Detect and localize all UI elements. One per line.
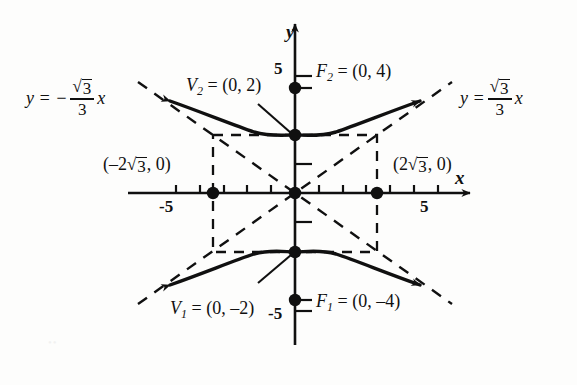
- asymptote-right-num: 3: [499, 79, 510, 97]
- asymptote-left-den: 3: [76, 100, 89, 118]
- vertex-bottom-label: V1 = (0, –2): [170, 299, 254, 320]
- scan-artifact: ••: [48, 336, 58, 348]
- corner-right-suffix: , 0): [428, 154, 452, 174]
- fraction-right-numerator: √3: [488, 78, 512, 98]
- sqrt-icon: √3: [490, 78, 510, 97]
- corner-right-prefix: (2: [393, 154, 408, 174]
- asymptote-right-variable: x: [515, 89, 523, 107]
- vertex-bottom-value: = (0, –2): [187, 298, 254, 318]
- asymptote-right-den: 3: [493, 100, 506, 118]
- asymptote-right-lhs: y =: [460, 89, 485, 107]
- corner-left-prefix: (–2: [103, 154, 127, 174]
- asymptote-right-equation: y = √3 3 x: [460, 78, 523, 118]
- focus-bottom-symbol: F: [316, 291, 327, 311]
- fraction-left-numerator: √3: [70, 78, 94, 98]
- focus-top-label: F2 = (0, 4): [316, 62, 391, 83]
- corner-left-label: (–2√3, 0): [103, 155, 171, 175]
- leader-v1: [258, 255, 291, 283]
- asymptote-left-equation: y = − √3 3 x: [26, 78, 105, 118]
- asymptote-left-num: 3: [82, 79, 93, 97]
- vertex-bottom-symbol: V: [170, 298, 181, 318]
- focus-bottom-value: = (0, –4): [333, 291, 400, 311]
- vertex-top-value: = (0, 2): [203, 75, 261, 95]
- point-origin: [289, 187, 301, 199]
- corner-right-radicand: 3: [417, 157, 428, 175]
- point-vertex-top: [289, 129, 301, 141]
- point-focus-top: [289, 82, 301, 94]
- asymptote-left-variable: x: [97, 89, 105, 107]
- sqrt-icon: √3: [72, 78, 92, 97]
- fraction-right: √3 3: [488, 78, 512, 118]
- plot-canvas: [0, 0, 577, 385]
- y-tick-label-neg5: -5: [268, 305, 282, 322]
- focus-top-value: = (0, 4): [333, 61, 391, 81]
- sqrt-icon: √3: [408, 156, 428, 175]
- corner-left-radicand: 3: [136, 157, 147, 175]
- y-axis-label: y: [286, 22, 294, 41]
- x-axis-label: x: [455, 168, 465, 187]
- focus-top-symbol: F: [316, 61, 327, 81]
- corner-left-suffix: , 0): [147, 154, 171, 174]
- x-tick-label-5: 5: [420, 198, 429, 215]
- point-corner-right: [371, 187, 383, 199]
- point-corner-left: [207, 187, 219, 199]
- point-focus-bottom: [289, 294, 301, 306]
- focus-bottom-label: F1 = (0, –4): [316, 292, 400, 313]
- corner-right-label: (2√3, 0): [393, 155, 452, 175]
- y-tick-label-5: 5: [274, 60, 283, 77]
- hyperbola-figure: y x 5 -5 -5 5 V2 = (0, 2) F2 = (0, 4) V1…: [0, 0, 577, 385]
- fraction-left: √3 3: [70, 78, 94, 118]
- vertex-top-label: V2 = (0, 2): [186, 76, 261, 97]
- point-vertex-bottom: [289, 246, 301, 258]
- sqrt-icon: √3: [127, 156, 147, 175]
- asymptote-left-lhs: y = −: [26, 89, 67, 107]
- leader-v2: [258, 104, 291, 133]
- vertex-top-symbol: V: [186, 75, 197, 95]
- x-tick-label-neg5: -5: [159, 198, 173, 215]
